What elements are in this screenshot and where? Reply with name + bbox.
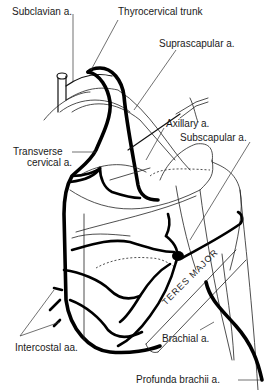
label-intercostal: Intercostal aa.	[15, 342, 78, 353]
label-brachial: Brachial a.	[162, 333, 209, 344]
label-subscapular: Subscapular a.	[180, 132, 247, 143]
leader-subscapular	[190, 142, 250, 240]
label-transverse-cervical-line1: Transverse	[13, 146, 63, 157]
subclavian-stump	[58, 76, 66, 112]
label-thyrocervical: Thyrocervical trunk	[118, 6, 202, 17]
label-profunda-brachii: Profunda brachii a.	[136, 374, 220, 385]
leader-thyrocervical	[91, 20, 118, 70]
leader-brachial	[200, 322, 214, 330]
label-suprascapular: Suprascapular a.	[159, 38, 235, 49]
label-transverse-cervical-line2: cervical a.	[27, 157, 72, 168]
label-axillary: Axillary a.	[166, 118, 209, 129]
scapular-anastomosis-diagram: Subclavian a. Thyrocervical trunk Supras…	[0, 0, 271, 390]
anatomy-drawing	[0, 0, 271, 390]
label-subclavian: Subclavian a.	[12, 6, 72, 17]
circumflex-scapular-knot	[172, 251, 184, 261]
suprascapular-artery	[88, 68, 158, 200]
leader-intercostal	[20, 290, 60, 336]
leader-suprascapular	[134, 50, 176, 110]
